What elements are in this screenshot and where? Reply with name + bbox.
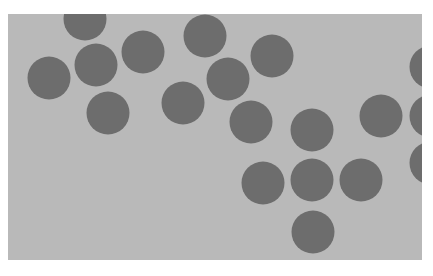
circle-shape	[28, 57, 71, 100]
circle-shape	[340, 159, 383, 202]
circle-shape	[251, 35, 294, 78]
circle-shape	[230, 101, 273, 144]
circle-shape	[122, 31, 165, 74]
circle-shape	[184, 15, 227, 58]
circle-shape	[292, 211, 335, 254]
circle-shape	[87, 92, 130, 135]
circle-shape	[360, 95, 403, 138]
circle-shape	[64, 14, 107, 41]
circle-shape	[291, 109, 334, 152]
circle-shape	[162, 82, 205, 125]
circle-shape	[410, 142, 423, 185]
circle-shape	[207, 58, 250, 101]
circle-shape	[242, 162, 285, 205]
image-panel	[8, 14, 422, 260]
circle-shape	[410, 46, 423, 89]
circle-shape	[291, 159, 334, 202]
circle-shape	[75, 44, 118, 87]
circles-canvas	[8, 14, 422, 260]
circle-shape	[410, 95, 423, 138]
